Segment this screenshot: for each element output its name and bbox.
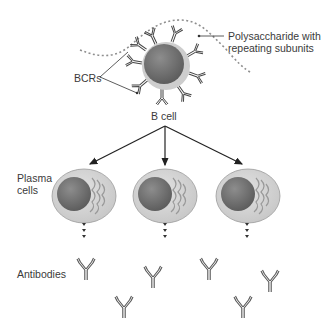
- b-cell-label: B cell: [151, 110, 177, 122]
- antibodies: [77, 258, 279, 318]
- differentiation-arrows: [90, 126, 242, 165]
- secretion-arrows: [82, 223, 249, 238]
- antibodies-label: Antibodies: [17, 268, 66, 280]
- plasma-cell-1: [52, 169, 116, 223]
- bcrs-label: BCRs: [74, 72, 101, 84]
- plasma-cells-label-line2: cells: [17, 184, 52, 196]
- plasma-cell-2: [133, 169, 197, 223]
- polysaccharide-pointer-line: [198, 35, 224, 38]
- plasma-cells-label-line1: Plasma: [17, 172, 52, 184]
- plasma-cells-label: Plasma cells: [17, 172, 52, 196]
- polysaccharide-label-line2: repeating subunits: [228, 42, 321, 54]
- polysaccharide-label: Polysaccharide with repeating subunits: [228, 30, 321, 54]
- b-cell: [142, 42, 190, 90]
- polysaccharide-label-line1: Polysaccharide with: [228, 30, 321, 42]
- bcrs-pointer-lines: [100, 52, 138, 94]
- plasma-cell-3: [216, 169, 280, 223]
